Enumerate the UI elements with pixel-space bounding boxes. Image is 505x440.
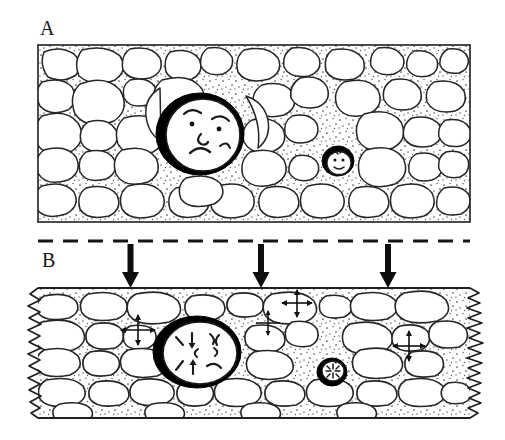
eye-left-icon: [190, 122, 195, 127]
load-arrow-center: [253, 244, 270, 288]
eye-right-icon: [342, 159, 345, 162]
compaction-figure: A B: [0, 0, 505, 440]
clast-body: [163, 322, 237, 384]
panel-label-b: B: [42, 250, 56, 270]
panel-label-a: A: [40, 18, 55, 38]
load-arrow-left: [122, 244, 139, 288]
eye-right-icon: [217, 127, 222, 132]
load-arrow-right: [380, 244, 397, 288]
panel-b-large-clast-face: [153, 316, 241, 388]
panel-a: [34, 45, 471, 222]
panel-b-small-clast-face: [317, 358, 347, 386]
diagram-canvas: [0, 0, 505, 440]
clast-body: [166, 99, 240, 171]
panel-a-small-clast-face: [322, 146, 354, 176]
overburden-load-indicator: [38, 241, 470, 288]
eye-left-icon: [334, 159, 337, 162]
panel-b: [28, 288, 483, 423]
panel-a-large-clast-face: [156, 93, 244, 175]
clast-body: [327, 152, 351, 175]
